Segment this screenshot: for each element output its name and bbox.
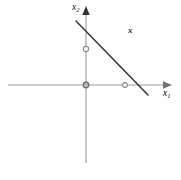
y-axis-label: x2	[72, 3, 79, 13]
coordinate-plot-svg	[0, 0, 181, 180]
bottom-scan-artifact	[22, 170, 160, 176]
origin-marker	[83, 82, 89, 88]
figure-container: x2 x1 x	[0, 0, 181, 180]
y-intercept-marker	[83, 46, 88, 51]
x-axis-label-subscript: 1	[167, 92, 170, 99]
x-axis-label: x1	[163, 89, 170, 99]
y-axis-label-subscript: 2	[76, 6, 79, 13]
y-axis-arrowhead	[82, 6, 89, 15]
x-axis-group	[8, 81, 172, 88]
set-region-label: x	[128, 26, 133, 35]
x-axis-marker	[123, 83, 128, 88]
